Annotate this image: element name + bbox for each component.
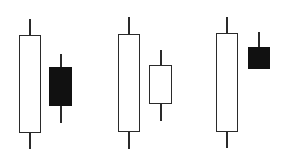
upper-wick bbox=[29, 19, 31, 35]
upper-wick bbox=[60, 54, 62, 67]
candlestick-chart bbox=[0, 0, 287, 164]
lower-wick bbox=[226, 132, 228, 148]
lower-wick bbox=[60, 106, 62, 123]
upper-wick bbox=[258, 32, 260, 47]
bullish-body bbox=[19, 35, 41, 133]
lower-wick bbox=[128, 132, 130, 149]
bullish-body bbox=[118, 34, 140, 132]
lower-wick bbox=[29, 133, 31, 149]
bullish-body bbox=[216, 33, 238, 132]
bullish-body bbox=[149, 65, 172, 104]
upper-wick bbox=[160, 50, 162, 65]
lower-wick bbox=[160, 104, 162, 121]
bearish-body bbox=[49, 67, 72, 106]
upper-wick bbox=[226, 17, 228, 33]
bearish-body bbox=[248, 47, 270, 69]
upper-wick bbox=[128, 17, 130, 34]
